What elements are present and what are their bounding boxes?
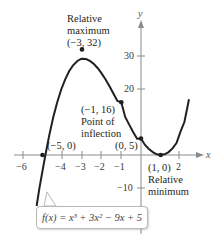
point-x-intercept <box>40 153 45 158</box>
y-tick-30: 30 <box>124 51 134 61</box>
rel-max-point: (−3, 32) <box>67 37 101 48</box>
label-pointer <box>44 192 56 206</box>
rel-max-label-1: Relative <box>67 13 102 24</box>
point-inflection <box>119 100 124 105</box>
point-y-intercept <box>139 136 144 141</box>
y-intercept-label: (0, 5) <box>115 140 138 151</box>
x-tick-m4: −4 <box>55 162 66 172</box>
inflection-point: (−1, 16) <box>81 104 115 115</box>
x-tick-2: 2 <box>176 162 181 172</box>
function-label-box: f(x) = x³ + 3x² − 9x + 5 <box>36 206 148 229</box>
x-tick-m1: −1 <box>114 162 125 172</box>
x-tick-m2: −2 <box>94 162 105 172</box>
y-axis-label: y <box>138 8 142 19</box>
y-axis-arrow-icon <box>138 20 144 28</box>
x-axis-label: x <box>206 149 210 160</box>
x-axis-arrow-icon <box>196 152 204 158</box>
inflection-label-2: inflection <box>81 128 121 139</box>
point-rel-min <box>158 153 163 158</box>
function-formula: f(x) = x³ + 3x² − 9x + 5 <box>42 212 142 223</box>
rel-min-label-2: minimum <box>148 186 189 197</box>
rel-min-point: (1, 0) <box>148 162 171 173</box>
inflection-label-1: Point of <box>81 116 115 127</box>
x-tick-m3: −3 <box>75 162 86 172</box>
rel-max-label-2: maximum <box>67 25 110 36</box>
x-tick-m6: −6 <box>16 162 27 172</box>
y-tick-20: 20 <box>124 84 134 94</box>
rel-min-label-1: Relative <box>148 174 183 185</box>
x-intercept-label: (−5, 0) <box>47 140 76 151</box>
y-tick-m10: −10 <box>117 183 133 193</box>
